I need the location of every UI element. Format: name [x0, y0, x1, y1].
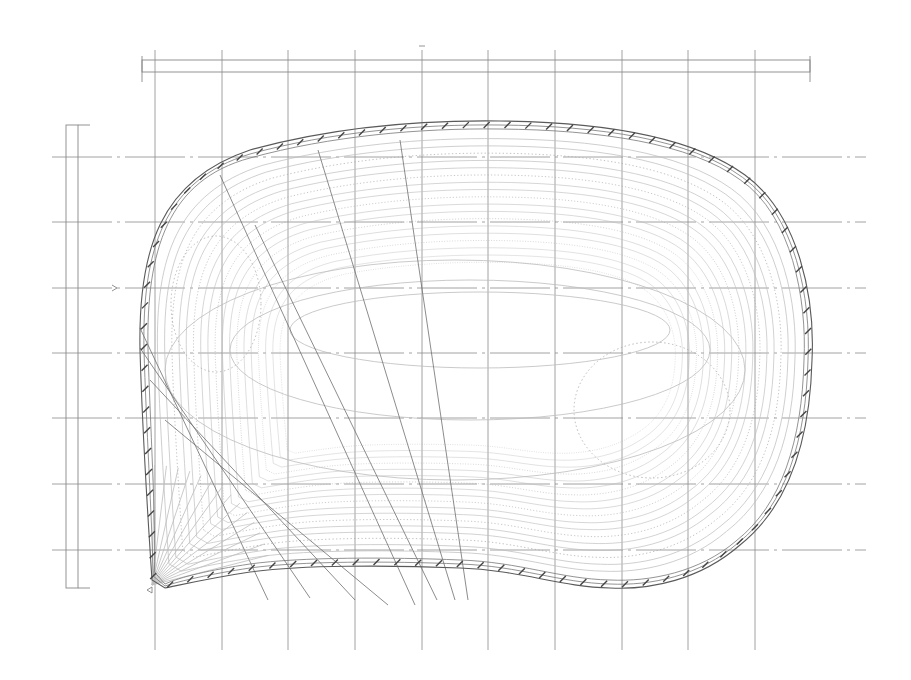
inner-contour: [230, 280, 710, 420]
contour-lines: [157, 139, 795, 572]
shape-outline: [140, 121, 812, 588]
hatch-mark: [790, 246, 796, 252]
hatch-mark: [797, 432, 803, 438]
hatch-mark: [791, 452, 797, 458]
dotted-ellipse: [171, 236, 261, 372]
top-ruler-bar: [142, 60, 810, 72]
dotted-ellipses: [171, 236, 730, 478]
section-line: [140, 328, 268, 600]
contour-line: [172, 153, 781, 557]
hatch-mark: [669, 142, 675, 148]
fan-line: [152, 481, 212, 585]
outline-contour: [140, 121, 812, 588]
hatch-mark: [782, 227, 788, 233]
section-line: [220, 175, 415, 605]
reference-markers: [112, 285, 152, 593]
contour-line: [201, 182, 753, 529]
hatch-guide: [144, 125, 808, 586]
hatch-mark: [689, 149, 695, 155]
contour-line: [215, 197, 739, 516]
hatch-mark: [796, 266, 802, 272]
contour-line: [165, 146, 789, 565]
contour-line: [266, 248, 690, 467]
contour-drawing: [0, 0, 911, 680]
hatch-mark: [663, 576, 669, 582]
hatch-mark: [237, 154, 243, 160]
section-line: [255, 225, 437, 600]
contour-line: [179, 160, 774, 550]
contour-line: [186, 168, 767, 544]
fan-line: [152, 495, 231, 585]
hatch-mark: [257, 148, 263, 154]
contour-line: [258, 240, 696, 474]
hatch-mark: [772, 209, 778, 215]
hatch-mark: [727, 166, 733, 172]
triangle-marker-icon: [147, 587, 152, 593]
outline-contour: [144, 125, 808, 586]
hatch-mark: [153, 241, 159, 247]
arrow-marker-icon: [112, 285, 117, 291]
hatch-mark: [277, 144, 283, 150]
contour-line: [273, 255, 683, 460]
hatch-mark: [785, 471, 791, 477]
inner-contour: [290, 292, 670, 368]
left-ruler-bar: [66, 125, 78, 588]
